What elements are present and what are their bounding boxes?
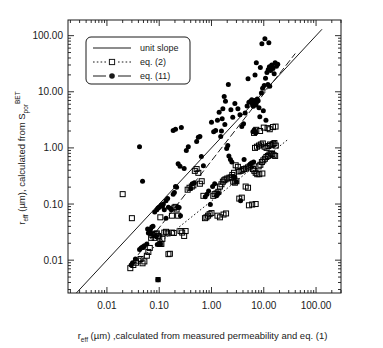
data-point-open-square <box>178 229 183 234</box>
y-tick-label: 100.00 <box>32 30 63 41</box>
data-point-filled-circle <box>246 76 251 81</box>
data-point-filled-circle <box>178 213 183 218</box>
data-point-filled-circle <box>201 163 206 168</box>
data-point-filled-circle <box>266 40 271 45</box>
data-point-filled-circle <box>165 196 170 201</box>
data-point-filled-circle <box>235 106 240 111</box>
scatter-chart: 0.010.101.0010.00100.000.010.101.0010.00… <box>0 0 383 348</box>
data-point-filled-circle <box>220 116 225 121</box>
data-point-filled-circle <box>150 224 155 229</box>
data-point-filled-circle <box>237 112 242 117</box>
data-point-filled-circle <box>256 98 261 103</box>
data-point-filled-circle <box>251 160 256 165</box>
data-point-filled-circle <box>154 234 159 239</box>
x-axis-title: reff (µm) ,calculated from measured perm… <box>78 330 328 343</box>
data-point-filled-circle <box>179 125 184 130</box>
data-point-filled-circle <box>194 139 199 144</box>
data-point-open-square <box>158 215 163 220</box>
y-tick-label: 1.00 <box>44 142 64 153</box>
data-point-filled-circle <box>174 185 179 190</box>
data-point-filled-circle <box>173 127 178 132</box>
data-point-filled-circle <box>243 110 248 115</box>
data-point-filled-circle <box>263 118 268 123</box>
x-tick-label: 10.00 <box>251 300 276 311</box>
data-point-filled-circle <box>158 241 163 246</box>
x-tick-label: 0.10 <box>149 300 169 311</box>
data-point-filled-circle <box>197 134 202 139</box>
data-point-filled-circle <box>169 207 174 212</box>
data-point-open-square <box>182 233 187 238</box>
data-point-filled-circle <box>137 144 142 149</box>
data-point-filled-circle <box>162 207 167 212</box>
data-point-filled-circle <box>172 190 177 195</box>
data-point-filled-circle <box>257 114 262 119</box>
data-point-filled-circle <box>232 175 237 180</box>
data-point-filled-circle <box>267 84 272 89</box>
data-point-filled-circle <box>223 99 228 104</box>
data-point-filled-circle <box>234 179 239 184</box>
data-point-filled-circle <box>140 179 145 184</box>
data-point-filled-circle <box>262 36 267 41</box>
data-point-filled-circle <box>188 186 193 191</box>
data-point-filled-circle <box>192 180 197 185</box>
data-point-filled-circle <box>219 129 224 134</box>
data-point-filled-circle <box>259 41 264 46</box>
data-point-filled-circle <box>253 130 258 135</box>
x-tick-label: 1.00 <box>202 300 222 311</box>
legend-marker-filled-circle <box>109 73 115 79</box>
data-point-filled-circle <box>220 106 225 111</box>
data-point-filled-circle <box>216 191 221 196</box>
data-point-filled-circle <box>230 115 235 120</box>
data-point-filled-circle <box>149 231 154 236</box>
data-point-filled-circle <box>238 198 243 203</box>
legend-label: unit slope <box>140 43 179 53</box>
legend-label: eq. (2) <box>140 57 166 67</box>
data-point-open-square <box>183 229 188 234</box>
y-tick-label: 0.01 <box>44 255 64 266</box>
data-point-filled-circle <box>186 144 191 149</box>
data-point-filled-circle <box>144 241 149 246</box>
data-point-filled-circle <box>215 118 220 123</box>
y-tick-label: 10.00 <box>38 86 63 97</box>
data-point-filled-circle <box>226 82 231 87</box>
legend-marker-open-square <box>109 59 114 64</box>
x-tick-label: 100.00 <box>301 300 332 311</box>
data-point-filled-circle <box>206 189 211 194</box>
data-point-filled-circle <box>241 121 246 126</box>
data-point-filled-circle <box>133 256 138 261</box>
data-point-filled-circle <box>254 60 259 65</box>
data-point-filled-circle <box>242 157 247 162</box>
y-axis-title: reff (µm), calculated from SporBET <box>14 91 30 224</box>
data-point-filled-circle <box>222 94 227 99</box>
data-point-open-square <box>192 168 197 173</box>
data-point-filled-circle <box>253 72 258 77</box>
data-point-filled-circle <box>225 143 230 148</box>
data-point-filled-circle <box>218 134 223 139</box>
data-point-filled-circle <box>232 101 237 106</box>
data-point-filled-circle <box>258 65 263 70</box>
data-point-filled-circle <box>177 205 182 210</box>
data-point-filled-square <box>155 277 160 282</box>
figure-container: 0.010.101.0010.00100.000.010.101.0010.00… <box>0 0 383 348</box>
data-point-filled-circle <box>217 110 222 115</box>
data-point-filled-circle <box>145 226 150 231</box>
data-point-filled-circle <box>261 108 266 113</box>
data-point-filled-circle <box>263 76 268 81</box>
x-tick-label: 0.01 <box>97 300 117 311</box>
data-point-filled-circle <box>275 62 280 67</box>
data-point-filled-circle <box>208 202 213 207</box>
data-point-filled-circle <box>164 216 169 221</box>
data-point-filled-circle <box>229 160 234 165</box>
data-point-open-square <box>180 230 185 235</box>
data-point-filled-circle <box>209 120 214 125</box>
legend-label: eq. (11) <box>140 71 170 81</box>
axis-titles: reff (µm) ,calculated from measured perm… <box>14 91 328 342</box>
data-point-open-square <box>129 216 134 221</box>
data-point-filled-circle <box>256 105 261 110</box>
data-point-filled-circle <box>213 128 218 133</box>
chart-legend: unit slopeeq. (2)eq. (11) <box>86 37 190 84</box>
data-point-filled-circle <box>228 107 233 112</box>
data-point-filled-circle <box>259 91 264 96</box>
data-point-open-square <box>120 192 125 197</box>
data-point-filled-circle <box>222 122 227 127</box>
